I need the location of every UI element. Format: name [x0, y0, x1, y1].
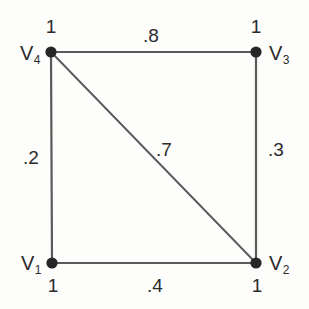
node-v1[interactable] [46, 257, 57, 268]
edge-weight-v1-v2: .4 [147, 276, 163, 295]
vertex-label-v1: V1 [21, 253, 41, 273]
graph-diagram-canvas: V11V21V31V41.8.2.3.4.7 [0, 0, 309, 309]
vertex-label-v2: V2 [269, 253, 289, 273]
edge-weight-v2-v3: .3 [268, 140, 284, 159]
edges-group [51, 52, 256, 263]
node-v4[interactable] [45, 46, 56, 57]
vertex-label-v3: V3 [269, 43, 289, 63]
node-weight-v3: 1 [251, 17, 262, 36]
node-weight-v4: 1 [46, 17, 57, 36]
edge-weight-v4-v3: .8 [143, 26, 159, 45]
node-weight-v2: 1 [252, 276, 263, 295]
edge-v4-v2 [51, 52, 256, 263]
edge-weight-v4-v2: .7 [156, 140, 172, 159]
vertex-label-v4: V4 [20, 43, 40, 63]
node-v3[interactable] [250, 46, 261, 57]
graph-edges-layer [0, 0, 309, 309]
node-weight-v1: 1 [48, 276, 59, 295]
edge-v1-v4 [51, 52, 52, 263]
node-v2[interactable] [250, 257, 261, 268]
edge-weight-v1-v4: .2 [23, 148, 39, 167]
